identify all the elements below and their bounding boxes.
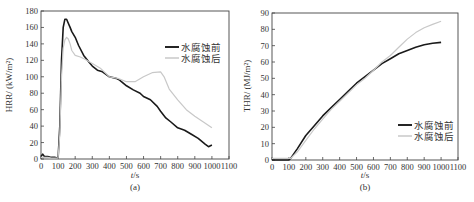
- chart-canvas: 0100200300400500600700800900100011000204…: [0, 0, 474, 202]
- x-tick-label: 100: [283, 162, 296, 172]
- y-tick-label: 20: [30, 138, 39, 148]
- y-tick-label: 90: [261, 8, 270, 18]
- y-tick-label: 120: [25, 55, 38, 65]
- y-tick-label: 140: [25, 39, 38, 49]
- x-tick-label: 100: [52, 161, 65, 171]
- y-tick-label: 20: [261, 122, 270, 132]
- x-tick-label: 200: [299, 162, 312, 172]
- x-tick-label: 1000: [433, 162, 450, 172]
- plot-frame: [41, 11, 229, 159]
- y-tick-label: 0: [265, 155, 269, 165]
- legend-label: 水腐蚀前: [181, 42, 221, 53]
- x-tick-label: 0: [39, 161, 43, 171]
- y-tick-label: 60: [261, 57, 270, 67]
- x-tick-label: 1100: [450, 162, 467, 172]
- x-tick-label: 900: [418, 162, 431, 172]
- y-axis-label: HRR/ (kW/m²): [4, 58, 14, 112]
- y-tick-label: 0: [34, 154, 38, 164]
- x-tick-label: 800: [401, 162, 414, 172]
- y-tick-label: 160: [25, 22, 38, 32]
- x-tick-label: 200: [69, 161, 82, 171]
- panel-label: (a): [130, 182, 140, 192]
- legend-label: 水腐蚀后: [181, 53, 221, 64]
- chart-panel-b: 0100200300400500600700800900100011000102…: [242, 8, 466, 192]
- y-tick-label: 10: [261, 139, 270, 149]
- x-tick-label: 400: [103, 161, 116, 171]
- x-axis-label: t/s: [131, 170, 140, 180]
- x-tick-label: 800: [171, 161, 184, 171]
- x-tick-label: 900: [188, 161, 201, 171]
- y-tick-label: 30: [261, 106, 270, 116]
- y-tick-label: 50: [261, 73, 270, 83]
- y-tick-label: 80: [30, 88, 39, 98]
- series-line-0: [41, 19, 212, 158]
- y-tick-label: 40: [30, 121, 39, 131]
- y-tick-label: 100: [25, 72, 38, 82]
- legend-label: 水腐蚀后: [414, 131, 454, 142]
- y-tick-label: 60: [30, 105, 39, 115]
- legend-label: 水腐蚀前: [414, 120, 454, 131]
- x-tick-label: 700: [154, 161, 167, 171]
- y-axis-label: THR/ (MJ/m²): [242, 60, 252, 112]
- x-tick-label: 1000: [203, 161, 220, 171]
- y-tick-label: 40: [261, 90, 270, 100]
- chart-panel-a: 0100200300400500600700800900100011000204…: [4, 6, 237, 192]
- series-line-0: [272, 42, 441, 160]
- x-tick-label: 0: [270, 162, 274, 172]
- x-tick-label: 300: [316, 162, 329, 172]
- panel-label: (b): [360, 182, 371, 192]
- x-tick-label: 700: [384, 162, 397, 172]
- x-tick-label: 1100: [221, 161, 238, 171]
- y-tick-label: 70: [261, 41, 270, 51]
- x-tick-label: 400: [333, 162, 346, 172]
- y-tick-label: 80: [261, 24, 270, 34]
- x-axis-label: t/s: [361, 170, 370, 180]
- x-tick-label: 300: [86, 161, 99, 171]
- y-tick-label: 180: [25, 6, 38, 16]
